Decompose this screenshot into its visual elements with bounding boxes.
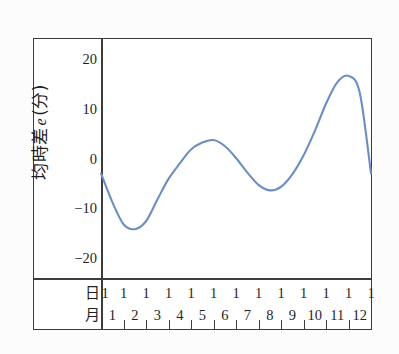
y-axis-title-variable: e <box>32 116 49 128</box>
x-tick <box>371 320 372 329</box>
calendar-axis-table: 日 1111111111111 月 123456789101112 <box>34 280 371 329</box>
y-axis-title: 均時差e(分) <box>26 57 52 207</box>
x-tick <box>124 320 125 329</box>
plot-region: 均時差e(分) 20100−10−20 <box>34 39 371 278</box>
x-tick <box>281 320 282 329</box>
x-tick <box>304 320 305 329</box>
x-tick <box>146 320 147 329</box>
day-row: 日 1111111111111 <box>34 282 371 306</box>
day-cell: 1 <box>277 282 284 304</box>
chart-figure: 均時差e(分) 20100−10−20 日 1111111111111 月 12… <box>33 38 372 330</box>
x-tick <box>191 320 192 329</box>
x-tick <box>259 320 260 329</box>
day-cell: 1 <box>322 282 329 304</box>
day-row-label: 日 <box>78 282 100 304</box>
day-cell: 1 <box>210 282 217 304</box>
y-axis-title-suffix: (分) <box>30 84 50 116</box>
day-cell: 1 <box>345 282 352 304</box>
day-cell: 1 <box>255 282 262 304</box>
day-cell: 1 <box>142 282 149 304</box>
y-tick-label: 20 <box>83 50 98 67</box>
day-cell: 1 <box>120 282 127 304</box>
y-tick-label: −20 <box>74 250 97 267</box>
x-tick <box>236 320 237 329</box>
x-axis-ticks <box>34 320 371 329</box>
x-tick <box>326 320 327 329</box>
x-tick <box>349 320 350 329</box>
day-cell: 1 <box>300 282 307 304</box>
day-cell: 1 <box>232 282 239 304</box>
y-tick-label: 0 <box>90 150 97 167</box>
equation-of-time-curve <box>101 39 371 278</box>
x-tick <box>169 320 170 329</box>
curve-path <box>101 75 371 229</box>
day-cell: 1 <box>101 282 108 304</box>
day-cell: 1 <box>165 282 172 304</box>
day-cell: 1 <box>367 282 374 304</box>
day-cell: 1 <box>187 282 194 304</box>
x-tick <box>214 320 215 329</box>
y-tick-label: 10 <box>83 100 98 117</box>
y-tick-label: −10 <box>74 200 97 217</box>
y-axis-title-prefix: 均時差 <box>30 127 50 180</box>
